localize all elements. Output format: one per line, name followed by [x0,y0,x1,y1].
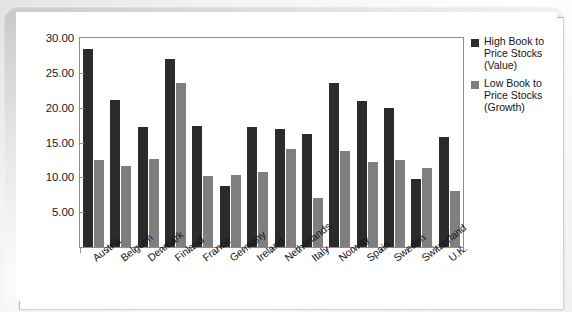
legend-label-line: Price Stocks [484,48,555,60]
bar-group [162,38,189,247]
bar-group [217,38,244,247]
y-axis-tick-mark [79,212,84,213]
y-axis-tick-label: 25.00 [30,67,74,79]
bar-group [80,38,107,247]
bar-group [189,38,216,247]
legend-label-line: (Value) [484,60,555,72]
y-axis-tick-mark [79,108,84,109]
bar-group [107,38,134,247]
bar-low-book-to-price [176,83,186,247]
y-axis-tick-label: 5.00 [30,206,74,218]
bar-low-book-to-price [340,151,350,247]
y-axis-tick-label: 20.00 [30,102,74,114]
plot-area [80,38,463,247]
legend-label: Low Book toPrice Stocks(Growth) [484,78,555,113]
bar-low-book-to-price [231,175,241,247]
bar-low-book-to-price [121,166,131,248]
bar-high-book-to-price [357,101,367,247]
legend-entry: Low Book toPrice Stocks(Growth) [471,78,555,113]
bar-low-book-to-price [368,162,378,247]
bar-group [135,38,162,247]
bar-group [326,38,353,247]
scanned-page-background: 30.0025.0020.0015.0010.005.00 AustriaBel… [0,0,572,312]
legend-swatch-icon [471,39,479,47]
bar-high-book-to-price [165,59,175,247]
y-axis-tick-mark [79,177,84,178]
chart-canvas: 30.0025.0020.0015.0010.005.00 AustriaBel… [16,12,557,301]
bar-high-book-to-price [138,127,148,247]
bar-high-book-to-price [384,108,394,247]
bar-low-book-to-price [395,160,405,247]
bar-group [381,38,408,247]
bar-group [272,38,299,247]
y-axis-tick-label: 15.00 [30,137,74,149]
bar-high-book-to-price [329,83,339,247]
bar-group [408,38,435,247]
bar-group [299,38,326,247]
bar-group [436,38,463,247]
bar-group [244,38,271,247]
y-axis-tick-mark [79,73,84,74]
y-axis-tick-label: 10.00 [30,171,74,183]
y-axis-tick-label: 30.00 [30,32,74,44]
bar-high-book-to-price [192,126,202,247]
legend-label-line: (Growth) [484,102,555,114]
bar-low-book-to-price [94,160,104,247]
bar-high-book-to-price [110,100,120,247]
chart-legend: High Book toPrice Stocks(Value)Low Book … [471,36,555,121]
x-axis-labels: AustriaBelguimDenmarkFinlandFranceGerman… [16,248,557,308]
legend-swatch-icon [471,81,479,89]
legend-label: High Book toPrice Stocks(Value) [484,36,555,71]
legend-entry: High Book toPrice Stocks(Value) [471,36,555,71]
bar-group [354,38,381,247]
bar-low-book-to-price [286,149,296,247]
bar-high-book-to-price [247,127,257,247]
bar-high-book-to-price [275,129,285,247]
y-axis-tick-mark [79,143,84,144]
bar-high-book-to-price [83,49,93,247]
bar-low-book-to-price [203,176,213,247]
bar-high-book-to-price [302,134,312,247]
